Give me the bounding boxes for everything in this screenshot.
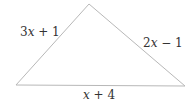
left-side-label: 3x + 1: [20, 25, 60, 39]
base-label: x + 4: [83, 88, 115, 102]
right-side-label: 2x − 1: [143, 36, 183, 50]
triangle-diagram: 3x + 1 2x − 1 x + 4: [0, 0, 193, 104]
